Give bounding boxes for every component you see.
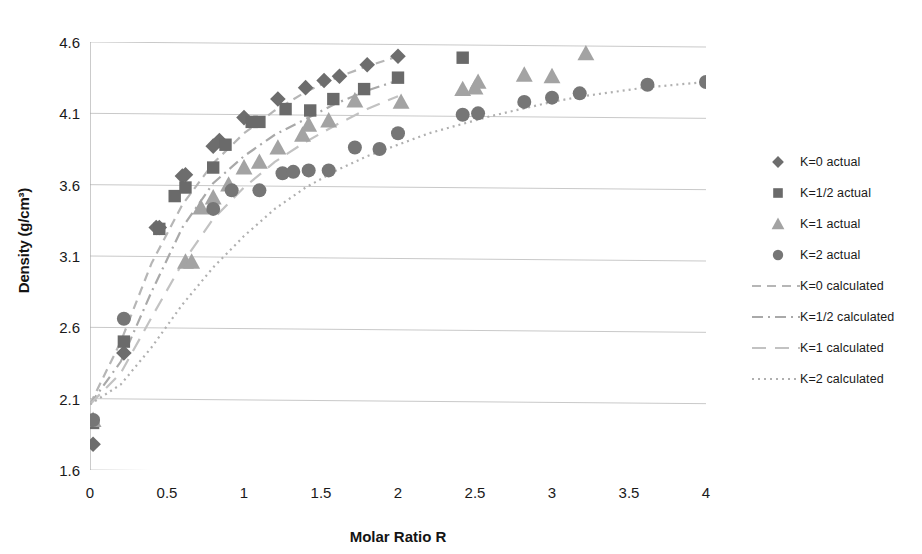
data-point — [545, 91, 559, 105]
legend-item[interactable]: K=2 calculated — [752, 363, 920, 394]
plot-area — [90, 42, 706, 470]
data-point — [373, 142, 387, 156]
legend-item-label: K=1 calculated — [800, 341, 884, 355]
x-axis-tick-label: 0.5 — [142, 484, 192, 501]
y-axis-tick-label: 4.1 — [34, 105, 80, 122]
x-axis-tick-label: 0 — [65, 484, 115, 501]
data-point — [117, 312, 131, 326]
data-point — [359, 57, 375, 73]
data-point — [219, 139, 231, 151]
data-point — [179, 181, 191, 193]
legend-marker-triangle-icon — [752, 214, 800, 234]
data-point — [517, 95, 531, 109]
legend-item-label: K=1/2 calculated — [800, 310, 894, 324]
curve-k-0-calculated — [90, 56, 398, 404]
data-point — [573, 86, 587, 100]
chart-legend: K=0 actualK=1/2 actualK=1 actualK=2 actu… — [752, 146, 920, 394]
data-point — [332, 68, 348, 84]
curve-k-1-2-calculated — [90, 81, 398, 405]
legend-item[interactable]: K=0 actual — [752, 146, 920, 177]
data-point — [393, 93, 410, 108]
data-point — [327, 93, 339, 105]
data-point — [252, 183, 266, 197]
data-point — [236, 159, 253, 174]
legend-item-label: K=0 calculated — [800, 279, 884, 293]
data-point — [348, 141, 362, 155]
legend-item-label: K=1 actual — [800, 217, 860, 231]
series-k-1-2-actual — [90, 51, 469, 429]
data-point — [225, 183, 239, 197]
legend-line-dotted-icon — [752, 369, 800, 389]
legend-item-label: K=0 actual — [800, 155, 860, 169]
series-k-2-actual — [90, 75, 706, 427]
legend-line-dashed-icon — [752, 276, 800, 296]
y-axis-tick-label: 4.6 — [34, 34, 80, 51]
legend-item[interactable]: K=1 calculated — [752, 332, 920, 363]
data-point — [251, 153, 268, 168]
legend-marker-diamond-icon — [752, 152, 800, 172]
data-point — [640, 78, 654, 92]
data-point — [207, 161, 219, 173]
data-point — [300, 116, 317, 131]
data-point — [320, 112, 337, 127]
legend-item-label: K=1/2 actual — [800, 186, 871, 200]
gridline — [90, 113, 706, 118]
data-point — [169, 190, 181, 202]
gridline — [90, 42, 706, 47]
data-point — [118, 335, 130, 347]
legend-item[interactable]: K=1/2 actual — [752, 177, 920, 208]
data-point — [358, 83, 370, 95]
legend-marker — [773, 249, 783, 259]
legend-line-dash-dot-icon — [752, 307, 800, 327]
data-point — [316, 73, 332, 89]
x-axis-tick-labels: 00.511.522.533.54 — [0, 484, 922, 508]
x-axis-title: Molar Ratio R — [90, 528, 706, 545]
data-point — [456, 108, 470, 122]
data-point — [279, 103, 291, 115]
legend-item[interactable]: K=1 actual — [752, 208, 920, 239]
data-point — [391, 126, 405, 140]
data-point — [516, 66, 533, 81]
y-axis-tick-label: 2.6 — [34, 319, 80, 336]
y-axis-tick-label: 3.1 — [34, 248, 80, 265]
y-axis-tick-label: 1.6 — [34, 462, 80, 479]
data-point — [269, 139, 286, 154]
data-markers — [90, 45, 706, 452]
legend-marker-square-icon — [752, 183, 800, 203]
data-point — [206, 202, 220, 216]
x-axis-title-text: Molar Ratio R — [350, 528, 447, 545]
x-axis-tick-label: 3.5 — [604, 484, 654, 501]
legend-item-label: K=2 actual — [800, 248, 860, 262]
data-point — [304, 104, 316, 116]
data-point — [471, 106, 485, 120]
data-point — [253, 116, 265, 128]
x-axis-tick-label: 2.5 — [450, 484, 500, 501]
x-axis-tick-label: 1.5 — [296, 484, 346, 501]
data-point — [90, 437, 101, 453]
x-axis-tick-label: 1 — [219, 484, 269, 501]
y-axis-tick-labels: 1.62.12.63.13.64.14.6 — [24, 0, 80, 554]
data-point — [298, 80, 314, 96]
plot-canvas — [90, 42, 706, 470]
legend-item[interactable]: K=0 calculated — [752, 270, 920, 301]
data-point — [699, 75, 706, 89]
y-axis-tick-label: 3.6 — [34, 176, 80, 193]
data-point — [302, 163, 316, 177]
data-point — [470, 73, 487, 88]
gridline — [90, 399, 706, 404]
data-point — [392, 71, 404, 83]
density-vs-molar-ratio-chart: Density (g/cm³) 1.62.12.63.13.64.14.6 00… — [0, 0, 922, 554]
x-axis-tick-label: 4 — [681, 484, 731, 501]
legend-marker-circle-icon — [752, 245, 800, 265]
legend-item[interactable]: K=1/2 calculated — [752, 301, 920, 332]
data-point — [390, 48, 406, 64]
legend-item-label: K=2 calculated — [800, 372, 884, 386]
legend-item[interactable]: K=2 actual — [752, 239, 920, 270]
legend-line-long-dash-icon — [752, 338, 800, 358]
gridline — [90, 327, 706, 332]
data-point — [322, 163, 336, 177]
legend-marker — [773, 188, 783, 198]
x-axis-tick-label: 2 — [373, 484, 423, 501]
y-axis-tick-label: 2.1 — [34, 390, 80, 407]
data-point — [544, 68, 561, 83]
